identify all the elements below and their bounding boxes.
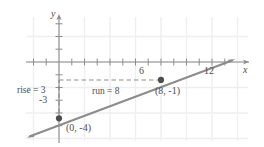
x-axis-label: x xyxy=(243,65,247,75)
point-label-origin: (0, -4) xyxy=(66,123,91,133)
y-tick-label-minus-3: -3 xyxy=(39,95,47,105)
y-axis-label: y xyxy=(51,9,55,19)
x-tick-label-6: 6 xyxy=(139,66,144,76)
data-point-8-minus-1 xyxy=(158,77,164,83)
run-label: run = 8 xyxy=(92,87,120,97)
x-tick-label-12: 12 xyxy=(204,66,214,76)
graph-figure: y x 6 12 -3 rise = 3 run = 8 (0, -4) (8,… xyxy=(0,0,264,147)
rise-label: rise = 3 xyxy=(17,86,46,96)
coordinate-plane-svg xyxy=(0,0,264,147)
data-point-0-minus-4 xyxy=(56,115,62,121)
point-label-second: (8, -1) xyxy=(155,86,180,96)
